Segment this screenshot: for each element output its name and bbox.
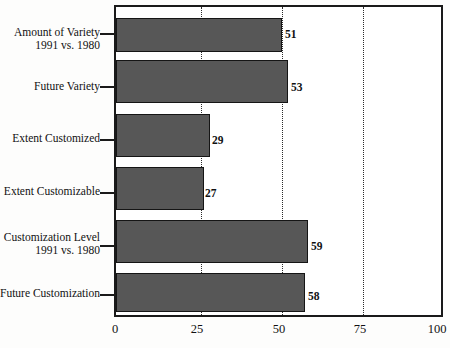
bar-value-label: 58	[308, 291, 320, 303]
y-axis-label-line: 1991 vs. 1980	[4, 244, 100, 257]
y-axis-category-labels: Amount of Variety 1991 vs. 1980 Future V…	[0, 0, 100, 348]
bar-future-variety	[116, 60, 288, 103]
y-axis-label-extent-customized: Extent Customized	[12, 132, 100, 145]
gridline-50	[282, 7, 283, 315]
plot-area	[114, 5, 443, 317]
y-axis-label-line: Future Variety	[34, 80, 100, 93]
y-axis-label-line: Customization Level	[4, 231, 100, 244]
bar-value-label: 59	[311, 241, 323, 253]
y-axis-label-line: Amount of Variety	[14, 26, 100, 39]
y-axis-label-extent-customizable: Extent Customizable	[4, 185, 100, 198]
y-axis-tick	[100, 294, 114, 296]
x-axis-tick-label-50: 50	[273, 322, 286, 337]
y-axis-label-line: Extent Customized	[12, 132, 100, 145]
y-axis-tick	[100, 86, 114, 88]
y-axis-tick	[100, 245, 114, 247]
bar-value-label: 27	[205, 188, 217, 200]
y-axis-label-amount-of-variety: Amount of Variety 1991 vs. 1980	[14, 26, 100, 52]
bar-customization-level	[116, 220, 308, 263]
y-axis-label-line: Extent Customizable	[4, 185, 100, 198]
bar-extent-customizable	[116, 167, 204, 210]
gridline-75	[363, 7, 364, 315]
gridline-25	[201, 7, 202, 315]
x-axis-tick-label-100: 100	[428, 322, 447, 337]
bar-value-label: 51	[285, 29, 297, 41]
y-axis-tick	[100, 192, 114, 194]
y-axis-label-future-variety: Future Variety	[34, 80, 100, 93]
y-axis-label-line: Future Customization	[0, 287, 100, 300]
x-axis-tick-label-25: 25	[191, 322, 204, 337]
bar-extent-customized	[116, 114, 210, 157]
x-axis-tick-label-0: 0	[112, 322, 118, 337]
y-axis-label-customization-level: Customization Level 1991 vs. 1980	[4, 231, 100, 257]
y-axis-label-line: 1991 vs. 1980	[14, 39, 100, 52]
bar-value-label: 53	[291, 82, 303, 94]
x-axis-tick-label-75: 75	[354, 322, 367, 337]
y-axis-label-future-customization: Future Customization	[0, 287, 100, 300]
bar-value-label: 29	[212, 135, 224, 147]
y-axis-tick	[100, 139, 114, 141]
bar-future-customization	[116, 273, 305, 312]
y-axis-tick	[100, 33, 114, 35]
bar-amount-of-variety	[116, 18, 282, 52]
chart-figure: Amount of Variety 1991 vs. 1980 Future V…	[0, 0, 450, 348]
